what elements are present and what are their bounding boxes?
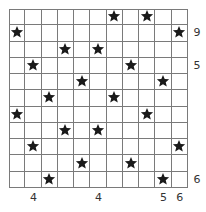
grid-cell[interactable] [58, 25, 74, 41]
grid-cell[interactable] [9, 25, 25, 41]
grid-cell[interactable] [42, 155, 58, 171]
grid-cell[interactable] [25, 58, 41, 74]
grid-cell[interactable] [25, 74, 41, 90]
grid-cell[interactable] [9, 58, 25, 74]
grid-cell[interactable] [74, 25, 90, 41]
grid-cell[interactable] [25, 155, 41, 171]
grid-cell[interactable] [107, 42, 123, 58]
grid-cell[interactable] [123, 139, 139, 155]
grid-cell[interactable] [139, 107, 155, 123]
grid-cell[interactable] [139, 74, 155, 90]
grid-cell[interactable] [155, 155, 171, 171]
grid-cell[interactable] [107, 90, 123, 106]
grid-cell[interactable] [107, 107, 123, 123]
grid-cell[interactable] [172, 139, 188, 155]
grid-cell[interactable] [172, 90, 188, 106]
grid-cell[interactable] [74, 123, 90, 139]
grid-cell[interactable] [155, 58, 171, 74]
grid-cell[interactable] [172, 123, 188, 139]
grid-cell[interactable] [139, 9, 155, 25]
grid-cell[interactable] [42, 90, 58, 106]
grid-cell[interactable] [74, 90, 90, 106]
grid-cell[interactable] [123, 90, 139, 106]
grid-cell[interactable] [107, 172, 123, 188]
grid-cell[interactable] [25, 9, 41, 25]
grid-cell[interactable] [74, 74, 90, 90]
grid-cell[interactable] [90, 9, 106, 25]
grid-cell[interactable] [123, 58, 139, 74]
grid-cell[interactable] [74, 155, 90, 171]
grid-cell[interactable] [74, 172, 90, 188]
grid-cell[interactable] [139, 58, 155, 74]
grid-cell[interactable] [107, 139, 123, 155]
grid-cell[interactable] [155, 139, 171, 155]
grid-cell[interactable] [107, 123, 123, 139]
grid-cell[interactable] [172, 9, 188, 25]
grid-cell[interactable] [90, 90, 106, 106]
grid-cell[interactable] [155, 90, 171, 106]
grid-cell[interactable] [139, 25, 155, 41]
grid-cell[interactable] [58, 90, 74, 106]
grid-cell[interactable] [90, 155, 106, 171]
grid-cell[interactable] [58, 155, 74, 171]
grid-cell[interactable] [25, 172, 41, 188]
grid-cell[interactable] [9, 90, 25, 106]
grid-cell[interactable] [74, 107, 90, 123]
grid-cell[interactable] [58, 74, 74, 90]
grid-cell[interactable] [25, 90, 41, 106]
grid-cell[interactable] [90, 25, 106, 41]
grid-cell[interactable] [172, 74, 188, 90]
grid-cell[interactable] [74, 9, 90, 25]
grid-cell[interactable] [107, 155, 123, 171]
grid-cell[interactable] [9, 155, 25, 171]
grid-cell[interactable] [123, 123, 139, 139]
grid-cell[interactable] [42, 42, 58, 58]
grid-cell[interactable] [9, 9, 25, 25]
grid-cell[interactable] [139, 172, 155, 188]
grid-cell[interactable] [42, 123, 58, 139]
grid-cell[interactable] [123, 74, 139, 90]
grid-cell[interactable] [123, 42, 139, 58]
grid-cell[interactable] [9, 139, 25, 155]
grid-cell[interactable] [42, 9, 58, 25]
grid-cell[interactable] [172, 42, 188, 58]
grid-cell[interactable] [123, 25, 139, 41]
grid-cell[interactable] [42, 107, 58, 123]
grid-cell[interactable] [58, 58, 74, 74]
grid-cell[interactable] [42, 58, 58, 74]
grid-cell[interactable] [42, 172, 58, 188]
grid-cell[interactable] [172, 172, 188, 188]
grid-cell[interactable] [107, 9, 123, 25]
grid-cell[interactable] [90, 107, 106, 123]
grid-cell[interactable] [58, 139, 74, 155]
grid-cell[interactable] [9, 107, 25, 123]
grid-cell[interactable] [90, 42, 106, 58]
grid-cell[interactable] [58, 123, 74, 139]
grid-cell[interactable] [155, 42, 171, 58]
grid-cell[interactable] [107, 74, 123, 90]
grid-cell[interactable] [9, 123, 25, 139]
grid-cell[interactable] [90, 123, 106, 139]
grid-cell[interactable] [9, 74, 25, 90]
grid-cell[interactable] [155, 107, 171, 123]
grid-cell[interactable] [74, 42, 90, 58]
grid-cell[interactable] [42, 25, 58, 41]
grid-cell[interactable] [58, 172, 74, 188]
grid-cell[interactable] [9, 172, 25, 188]
grid-cell[interactable] [123, 155, 139, 171]
grid-cell[interactable] [172, 58, 188, 74]
grid-cell[interactable] [139, 42, 155, 58]
grid-cell[interactable] [74, 139, 90, 155]
grid-cell[interactable] [42, 74, 58, 90]
grid-cell[interactable] [90, 172, 106, 188]
grid-cell[interactable] [90, 139, 106, 155]
grid-cell[interactable] [123, 107, 139, 123]
grid-cell[interactable] [58, 9, 74, 25]
grid-cell[interactable] [107, 25, 123, 41]
grid-cell[interactable] [172, 25, 188, 41]
grid-cell[interactable] [139, 155, 155, 171]
grid-cell[interactable] [58, 42, 74, 58]
grid-cell[interactable] [58, 107, 74, 123]
grid-cell[interactable] [155, 74, 171, 90]
grid-cell[interactable] [25, 139, 41, 155]
